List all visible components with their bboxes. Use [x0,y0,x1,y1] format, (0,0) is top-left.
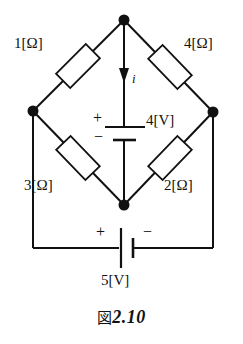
caption-fig-glyph: 図 [97,309,112,327]
resistor-label-1ohm: 1[Ω] [14,36,43,51]
resistor-label-3ohm: 3[Ω] [24,178,53,193]
resistor-label-4ohm: 4[Ω] [184,36,213,51]
node-left [28,106,39,117]
resistor-body-4ohm [148,45,192,89]
current-arrow-icon [119,68,129,83]
figure-container: 1[Ω] 4[Ω] 3[Ω] 2[Ω] i + − 4[V] + − 5[V] … [0,0,243,344]
resistor-body-1ohm [56,44,100,88]
battery-5v-minus-sign: − [143,224,152,240]
battery-4v-label: 4[V] [146,113,174,128]
battery-5v-label: 5[V] [101,273,129,288]
node-bottom [119,200,130,211]
node-top [119,15,130,26]
node-right [208,107,219,118]
battery-4v-plus-sign: + [93,110,102,126]
figure-caption: 図2.10 [0,306,243,328]
battery-5v-plus-sign: + [96,224,105,240]
current-label-i: i [132,72,136,85]
circuit-schematic [0,0,243,344]
resistor-label-2ohm: 2[Ω] [164,178,193,193]
resistor-body-2ohm [148,136,192,180]
caption-number: 2.10 [112,307,146,327]
battery-4v-minus-sign: − [94,129,103,145]
